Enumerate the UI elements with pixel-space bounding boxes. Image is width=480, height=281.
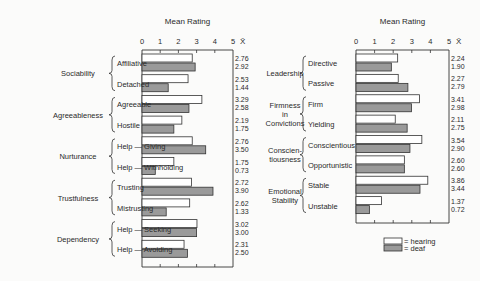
chart2-value-label-deaf: 2.79 bbox=[451, 83, 465, 90]
chart1-category-label: Sociability bbox=[61, 69, 95, 78]
chart1-value-label-hearing: 2.62 bbox=[235, 200, 249, 207]
chart2-value-label-hearing: 2.27 bbox=[451, 75, 465, 82]
chart1-title: Mean Rating bbox=[165, 17, 210, 26]
chart2-bar-hearing bbox=[356, 74, 398, 82]
chart2-value-label-hearing: 3.41 bbox=[451, 96, 465, 103]
chart1-value-label-deaf: 1.44 bbox=[235, 84, 249, 91]
chart2-item-label: Passive bbox=[308, 79, 334, 88]
chart2-item-label: Opportunistic bbox=[308, 161, 352, 170]
chart1-value-label-deaf: 2.50 bbox=[235, 249, 249, 256]
chart2-value-label-deaf: 3.44 bbox=[451, 185, 465, 192]
chart2-value-label-deaf: 2.98 bbox=[451, 104, 465, 111]
chart1-value-label-hearing: 2.76 bbox=[235, 138, 249, 145]
chart1-item-label: Affiliative bbox=[117, 59, 147, 68]
chart1-bar-deaf bbox=[142, 63, 195, 71]
chart1-tick-label: 1 bbox=[158, 37, 162, 46]
legend-swatch-deaf bbox=[384, 245, 402, 251]
chart1-brace bbox=[109, 97, 115, 132]
chart1-bar-hearing bbox=[142, 178, 192, 186]
chart1-brace bbox=[109, 222, 115, 257]
chart2-value-label-deaf: 1.90 bbox=[451, 63, 465, 70]
chart1-value-label-hearing: 2.19 bbox=[235, 117, 249, 124]
chart1-value-label-hearing: 2.31 bbox=[235, 241, 249, 248]
chart1-bar-deaf bbox=[142, 125, 174, 133]
chart1-value-label-hearing: 2.72 bbox=[235, 179, 249, 186]
chart2-tick-label: 5 bbox=[447, 37, 451, 46]
chart1-bar-hearing bbox=[142, 116, 182, 124]
chart1-tick-label: 4 bbox=[213, 37, 217, 46]
chart1-item-label: Agreeable bbox=[117, 100, 151, 109]
chart1-brace bbox=[109, 56, 115, 91]
chart2-category-label: Stability bbox=[272, 196, 299, 205]
chart1-bar-hearing bbox=[142, 54, 192, 62]
chart2-bar-hearing bbox=[356, 115, 395, 123]
chart2-value-label-hearing: 2.60 bbox=[451, 157, 465, 164]
chart2-value-label-hearing: 2.11 bbox=[451, 116, 464, 123]
chart1-category-label: Nurturance bbox=[59, 152, 96, 161]
chart1-tick-label: 3 bbox=[195, 37, 199, 46]
chart2-bar-hearing bbox=[356, 95, 419, 103]
chart2-item-label: Firm bbox=[308, 100, 323, 109]
chart2-bar-hearing bbox=[356, 197, 381, 205]
chart1-value-label-hearing: 3.29 bbox=[235, 96, 249, 103]
chart1-item-label: Trusting bbox=[117, 183, 144, 192]
chart2-value-label-hearing: 3.86 bbox=[451, 177, 465, 184]
chart1-value-label-deaf: 3.50 bbox=[235, 146, 249, 153]
chart2-value-label-deaf: 2.60 bbox=[451, 165, 465, 172]
chart2-bar-hearing bbox=[356, 54, 398, 62]
chart2-mean-header: X̄ bbox=[456, 37, 462, 46]
chart2-category-label: Convictions bbox=[266, 119, 305, 128]
chart2-value-label-hearing: 2.24 bbox=[451, 55, 465, 62]
chart1-value-label-deaf: 2.92 bbox=[235, 63, 249, 70]
chart1-category-label: Trustfulness bbox=[58, 194, 99, 203]
chart2-bar-deaf bbox=[356, 83, 408, 91]
chart2-item-label: Yielding bbox=[308, 120, 334, 129]
chart2-tick-label: 0 bbox=[354, 37, 358, 46]
chart1-tick-label: 2 bbox=[176, 37, 180, 46]
chart1-value-label-hearing: 1.75 bbox=[235, 159, 249, 166]
chart2-category-label: tiousness bbox=[269, 155, 301, 164]
chart1-item-label: Mistrusting bbox=[117, 204, 153, 213]
chart2-item-label: Unstable bbox=[308, 202, 338, 211]
chart1-value-label-deaf: 2.58 bbox=[235, 104, 249, 111]
chart2-value-label-deaf: 2.75 bbox=[451, 124, 465, 131]
chart2-value-label-hearing: 1.37 bbox=[451, 198, 465, 205]
chart2-category-label: Conscien- bbox=[268, 146, 302, 155]
chart2-item-label: Stable bbox=[308, 181, 329, 190]
chart1-item-label: Help — Withholding bbox=[117, 163, 183, 172]
chart1-item-label: Help — Avoiding bbox=[117, 245, 172, 254]
chart2-tick-label: 3 bbox=[410, 37, 414, 46]
chart1-category-label: Dependency bbox=[57, 235, 99, 244]
legend-label-deaf: = deaf bbox=[404, 244, 426, 253]
chart2-value-label-deaf: 0.72 bbox=[451, 206, 465, 213]
chart2-bar-deaf bbox=[356, 124, 407, 132]
chart1-brace bbox=[109, 139, 115, 174]
chart1-item-label: Help — Seeking bbox=[117, 225, 171, 234]
chart1-mean-header: X̄ bbox=[240, 37, 246, 46]
chart2-tick-label: 2 bbox=[391, 37, 395, 46]
chart2-bar-deaf bbox=[356, 63, 391, 71]
chart1-value-label-hearing: 2.53 bbox=[235, 76, 249, 83]
chart1-value-label-hearing: 2.76 bbox=[235, 55, 249, 62]
chart2-bar-hearing bbox=[356, 176, 428, 184]
chart2-bar-deaf bbox=[356, 206, 369, 214]
rating-charts: Mean Rating012345X̄2.762.92Affiliative2.… bbox=[0, 0, 480, 281]
chart2-bar-deaf bbox=[356, 185, 420, 193]
legend-swatch-hearing bbox=[384, 238, 402, 244]
chart2-bar-hearing bbox=[356, 136, 422, 144]
chart1-value-label-hearing: 3.02 bbox=[235, 221, 249, 228]
chart1-value-label-deaf: 1.33 bbox=[235, 208, 249, 215]
chart1-brace bbox=[109, 180, 115, 215]
chart2-bar-deaf bbox=[356, 104, 411, 112]
chart1-value-label-deaf: 0.73 bbox=[235, 167, 249, 174]
chart1-category-label: Agreeableness bbox=[53, 111, 103, 120]
chart2-value-label-hearing: 3.54 bbox=[451, 137, 465, 144]
chart2-bar-deaf bbox=[356, 145, 410, 153]
chart2-category-label: in bbox=[282, 110, 288, 119]
chart2-category-label: Firmness bbox=[270, 101, 301, 110]
chart2-value-label-deaf: 2.90 bbox=[451, 145, 465, 152]
chart2-tick-label: 4 bbox=[428, 37, 432, 46]
chart2-item-label: Directive bbox=[308, 59, 337, 68]
chart1-item-label: Detached bbox=[117, 80, 149, 89]
chart1-value-label-deaf: 3.90 bbox=[235, 187, 249, 194]
